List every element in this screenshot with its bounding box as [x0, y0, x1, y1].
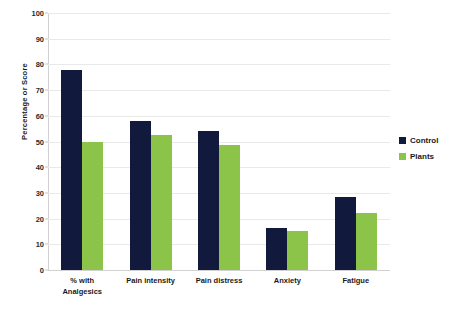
y-tick-label-100: 100	[0, 9, 44, 18]
bar-control-2	[198, 131, 219, 270]
y-tick-label-80: 80	[0, 60, 44, 69]
gridline-0	[48, 270, 390, 271]
y-tick-label-20: 20	[0, 214, 44, 223]
y-tick-label-0: 0	[0, 266, 44, 275]
legend-item-plants[interactable]: Plants	[399, 152, 455, 161]
legend-label: Plants	[410, 152, 434, 161]
y-tick-label-70: 70	[0, 86, 44, 95]
x-label-4: Fatigue	[322, 276, 390, 287]
y-tick-label-90: 90	[0, 34, 44, 43]
bar-plants-2	[219, 145, 240, 270]
x-label-line: Pain intensity	[116, 276, 184, 287]
y-tick-label-50: 50	[0, 137, 44, 146]
bar-control-3	[266, 228, 287, 270]
bar-control-1	[130, 121, 151, 270]
bar-group	[322, 13, 390, 270]
legend-swatch-icon	[399, 153, 406, 160]
y-tick-label-30: 30	[0, 188, 44, 197]
bar-chart: Percentage or Score 01020304050607080901…	[0, 0, 455, 313]
bar-group	[48, 13, 116, 270]
legend-label: Control	[410, 136, 438, 145]
x-label-1: Pain intensity	[116, 276, 184, 287]
x-label-0: % withAnalgesics	[48, 276, 116, 297]
y-tick-label-10: 10	[0, 240, 44, 249]
plot-area	[48, 13, 390, 270]
bar-plants-4	[356, 213, 377, 270]
x-label-line: Fatigue	[322, 276, 390, 287]
bar-control-0	[61, 70, 82, 270]
bar-group	[253, 13, 321, 270]
x-axis-category-labels: % withAnalgesicsPain intensityPain distr…	[48, 276, 390, 312]
x-label-2: Pain distress	[185, 276, 253, 287]
legend-swatch-icon	[399, 137, 406, 144]
y-tick-label-40: 40	[0, 163, 44, 172]
bar-plants-0	[82, 142, 103, 271]
bar-control-4	[335, 197, 356, 270]
x-label-3: Anxiety	[253, 276, 321, 287]
chart-legend: ControlPlants	[399, 136, 455, 168]
x-label-line: Pain distress	[185, 276, 253, 287]
bar-groups	[48, 13, 390, 270]
x-label-line: % with	[48, 276, 116, 287]
bar-plants-3	[287, 231, 308, 270]
bar-plants-1	[151, 135, 172, 270]
x-label-line: Analgesics	[48, 287, 116, 298]
x-label-line: Anxiety	[253, 276, 321, 287]
y-tick-label-60: 60	[0, 111, 44, 120]
bar-group	[116, 13, 184, 270]
bar-group	[185, 13, 253, 270]
legend-item-control[interactable]: Control	[399, 136, 455, 145]
y-axis-tick-labels: 0102030405060708090100	[0, 0, 44, 313]
